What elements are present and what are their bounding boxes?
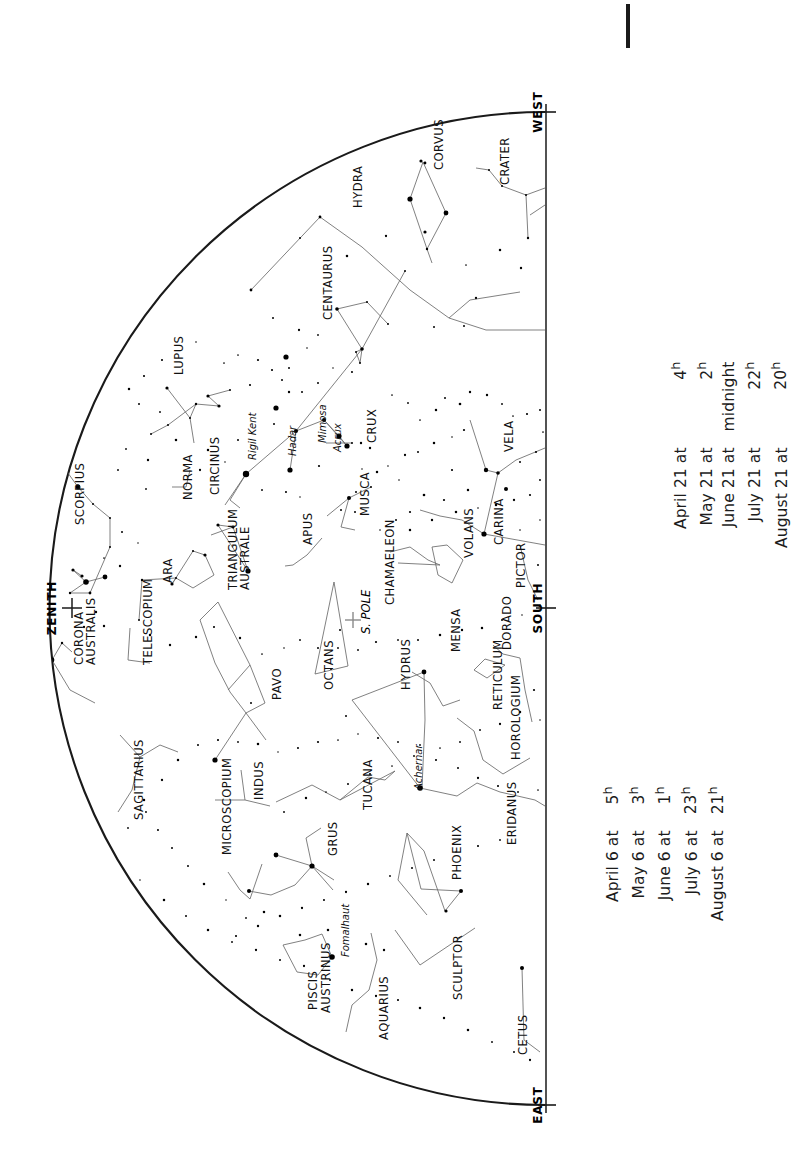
star-name-label: Acrux [332, 423, 343, 453]
constellation-label: CARINA [492, 498, 506, 545]
star [103, 557, 105, 559]
star [407, 402, 409, 404]
constellation-label: TELESCOPIUM [141, 578, 155, 666]
star [195, 636, 197, 638]
star [283, 354, 288, 359]
star [206, 394, 209, 397]
star [127, 827, 129, 829]
star [529, 494, 531, 496]
star [512, 415, 514, 417]
compass-label-south: SOUTH [531, 583, 545, 634]
star [80, 574, 83, 577]
star [451, 436, 453, 438]
star [257, 925, 259, 927]
star [239, 637, 241, 639]
star [477, 507, 479, 509]
star [189, 417, 191, 419]
star [361, 468, 363, 470]
legend-dates-lower: April 6 at5hMay 6 at3hJune 6 at1hJuly 6 … [600, 786, 727, 921]
star [224, 461, 226, 463]
legend-time: 23h [678, 786, 700, 814]
star [237, 354, 239, 356]
star [299, 496, 301, 498]
star [375, 641, 377, 643]
star [465, 264, 467, 266]
star [237, 741, 239, 743]
star [207, 929, 209, 931]
star [306, 347, 308, 349]
constellation-label: GRUS [326, 821, 340, 856]
constellation-label: MENSA [449, 608, 463, 652]
star [519, 461, 521, 463]
constellation-label: CIRCINUS [208, 436, 222, 495]
constellation-labels: HYDRACORVUSCRATERCENTAURUSLUPUSCRUXMUSCA… [72, 119, 530, 1055]
star [484, 468, 488, 472]
star [109, 546, 111, 548]
star [277, 751, 279, 753]
star [443, 1017, 445, 1019]
constellation-label: AUSTRALIS [84, 597, 98, 665]
star [303, 965, 305, 967]
star [407, 196, 412, 201]
star [250, 289, 253, 292]
star [488, 169, 490, 171]
star [539, 519, 541, 521]
star [369, 447, 371, 449]
star [255, 949, 257, 951]
star [347, 783, 349, 785]
constellation-label: AQUARIUS [377, 976, 391, 1040]
star [327, 929, 330, 932]
constellation-label: HOROLOGIUM [509, 675, 523, 760]
star [335, 307, 339, 311]
star [397, 741, 399, 743]
constellation-label: TUCANA [361, 759, 375, 811]
star [125, 448, 127, 450]
star [404, 270, 406, 272]
star [366, 301, 368, 303]
star [69, 592, 71, 594]
star [197, 744, 199, 746]
star [444, 397, 446, 399]
star [272, 317, 274, 319]
star [491, 1041, 493, 1043]
star [481, 531, 486, 536]
south-pole-label: S. POLE [359, 589, 373, 634]
star [339, 629, 341, 631]
star-name-label: Hadar [287, 425, 298, 456]
legend-date: May 21 at [698, 447, 716, 548]
star [231, 941, 233, 943]
star [92, 503, 94, 505]
legend-date: May 6 at [630, 830, 648, 921]
star [337, 739, 339, 741]
star [520, 267, 522, 269]
constellation-label: LUPUS [172, 336, 186, 375]
star [387, 465, 389, 467]
legend-date: April 21 at [672, 447, 690, 548]
star [397, 999, 399, 1001]
star [463, 429, 465, 431]
star [359, 362, 361, 364]
constellation-label: NORMA [181, 454, 195, 500]
star [424, 162, 427, 165]
star [274, 853, 279, 858]
star [243, 471, 249, 477]
star [357, 733, 359, 735]
star [273, 423, 275, 425]
constellation-label: CENTAURUS [321, 245, 335, 320]
star [417, 639, 419, 641]
star-name-label: Fomalhaut [340, 903, 351, 957]
star [340, 509, 342, 511]
star [249, 384, 251, 386]
star [171, 847, 173, 849]
constellation-label: AUSTRINUS [319, 942, 333, 1013]
star-chart-page: HYDRACORVUSCRATERCENTAURUSLUPUSCRUXMUSCA… [0, 0, 803, 1164]
legend-date: June 21 at [720, 447, 738, 548]
constellation-label: MUSCA [358, 472, 372, 516]
star [533, 689, 535, 691]
constellation-label: RETICULUM [491, 639, 505, 710]
star [347, 496, 351, 500]
star [288, 391, 290, 393]
stars-layer [50, 159, 549, 1061]
star [433, 442, 435, 444]
star [469, 391, 471, 393]
